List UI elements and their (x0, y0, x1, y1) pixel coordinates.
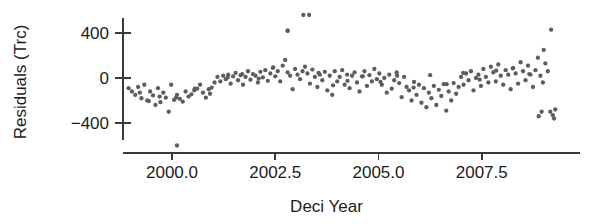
data-point (537, 114, 541, 118)
data-point (432, 84, 436, 88)
data-point (138, 90, 142, 94)
data-point (352, 70, 356, 74)
data-point (240, 72, 244, 76)
data-point (424, 105, 428, 109)
data-point (513, 71, 517, 75)
data-point (476, 72, 480, 76)
data-point (130, 89, 134, 93)
data-point (281, 63, 285, 67)
data-point (164, 96, 168, 100)
data-point (204, 96, 208, 100)
data-point (315, 85, 319, 89)
y-axis-tick-label: −400 (71, 114, 109, 133)
data-point (411, 85, 415, 89)
data-point (158, 100, 162, 104)
data-point (266, 79, 270, 83)
residuals-scatter-figure: 2000.02002.52005.02007.54000−400Deci Yea… (0, 0, 612, 224)
data-point (261, 75, 265, 79)
data-point (454, 92, 458, 96)
data-point (445, 82, 449, 86)
data-point (516, 81, 520, 85)
data-point (357, 89, 361, 93)
data-point (189, 92, 193, 96)
data-point (549, 27, 553, 31)
data-point (501, 83, 505, 87)
x-axis-tick-label: 2002.5 (249, 163, 301, 182)
data-point (469, 69, 473, 73)
data-point (347, 86, 351, 90)
data-point (407, 88, 411, 92)
data-point (397, 81, 401, 85)
data-point (533, 68, 537, 72)
data-point (303, 65, 307, 69)
data-point (444, 108, 448, 112)
data-point (273, 74, 277, 78)
data-point (325, 88, 329, 92)
data-point (382, 76, 386, 80)
data-point (248, 78, 252, 82)
data-point (486, 80, 490, 84)
data-point (212, 80, 216, 84)
data-point (527, 72, 531, 76)
data-point (175, 143, 179, 147)
data-point (461, 71, 465, 75)
data-point (362, 69, 366, 73)
data-point (536, 56, 540, 60)
data-point (370, 79, 374, 83)
data-point (288, 74, 292, 78)
data-point (471, 88, 475, 92)
data-point (367, 73, 371, 77)
x-axis-tick-label: 2000.0 (146, 163, 198, 182)
data-point (542, 48, 546, 52)
data-point (253, 74, 257, 78)
data-point (169, 83, 173, 87)
data-point (313, 75, 317, 79)
data-point (494, 69, 498, 73)
data-point (271, 65, 275, 69)
data-point (494, 79, 498, 83)
data-point (328, 74, 332, 78)
data-point (417, 83, 421, 87)
data-point (447, 89, 451, 93)
data-point (456, 85, 460, 89)
data-point (201, 90, 205, 94)
y-axis-tick-label: 0 (100, 69, 109, 88)
data-point (295, 72, 299, 76)
data-point (335, 79, 339, 83)
data-point (538, 74, 542, 78)
data-point (258, 70, 262, 74)
x-axis-tick-label: 2005.0 (353, 163, 405, 182)
y-axis-title: Residuals (Trc) (11, 25, 30, 140)
data-point (256, 80, 260, 84)
plot-canvas: 2000.02002.52005.02007.54000−400Deci Yea… (0, 0, 612, 224)
data-point (543, 61, 547, 65)
data-point (183, 89, 187, 93)
data-point (136, 85, 140, 89)
data-point (414, 93, 418, 97)
data-point (409, 98, 413, 102)
data-point (156, 86, 160, 90)
data-point (452, 81, 456, 85)
data-point (139, 96, 143, 100)
data-point (193, 87, 197, 91)
data-point (263, 68, 267, 72)
data-point (241, 83, 245, 87)
data-point (181, 99, 185, 103)
data-point (210, 85, 214, 89)
data-point (307, 13, 311, 17)
data-point (375, 77, 379, 81)
data-point (233, 71, 237, 75)
data-point (333, 69, 337, 73)
data-point (439, 94, 443, 98)
data-point (243, 75, 247, 79)
data-point (429, 96, 433, 100)
data-point (553, 107, 557, 111)
data-point (504, 68, 508, 72)
data-point (283, 58, 287, 62)
data-point (419, 101, 423, 105)
data-point (298, 77, 302, 81)
data-point (174, 96, 178, 100)
data-point (361, 74, 365, 78)
data-points-group (126, 13, 557, 148)
data-point (521, 69, 525, 73)
